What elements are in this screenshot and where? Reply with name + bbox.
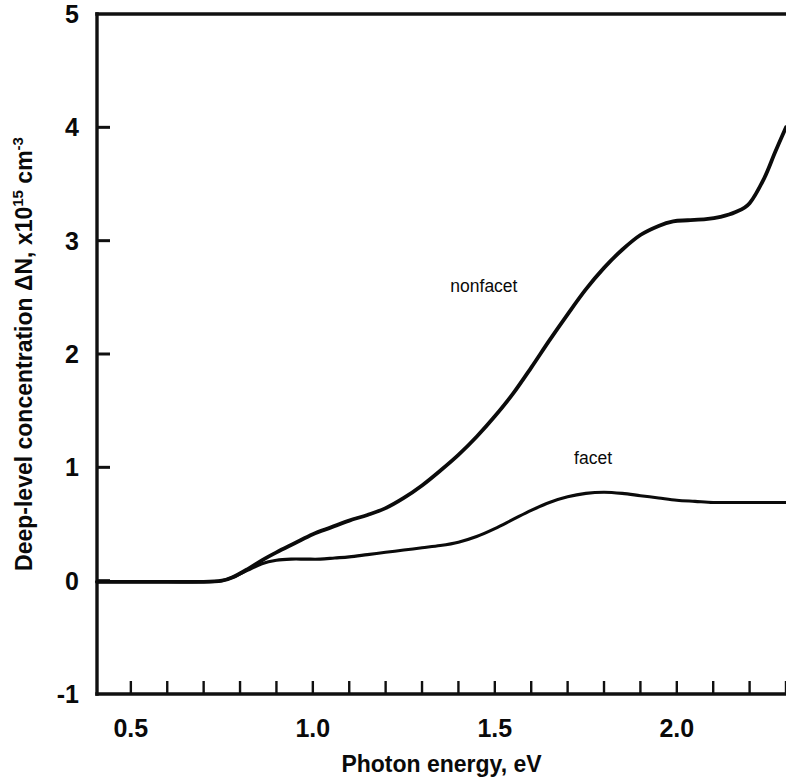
y-tick-label: 0 — [65, 567, 79, 595]
y-tick-label: 5 — [65, 0, 79, 28]
x-tick-label: 1.0 — [295, 714, 330, 742]
y-tick-label: 3 — [65, 227, 79, 255]
x-axis-title: Photon energy, eV — [341, 751, 542, 777]
series-label-nonfacet: nonfacet — [450, 276, 517, 296]
y-tick-label: -1 — [57, 680, 79, 708]
curve-nonfacet — [97, 127, 786, 582]
axes — [97, 14, 786, 694]
y-tick-label: 4 — [65, 113, 79, 141]
plot-canvas: -10123450.51.01.52.0 nonfacetfacet Photo… — [0, 0, 786, 783]
axis-ticks — [97, 127, 786, 694]
x-tick-label: 0.5 — [113, 714, 148, 742]
y-axis-title: Deep-level concentration ΔN, x1015 cm-3 — [9, 137, 37, 571]
x-tick-label: 1.5 — [477, 714, 512, 742]
x-tick-label: 2.0 — [659, 714, 694, 742]
chart-figure: -10123450.51.01.52.0 nonfacetfacet Photo… — [0, 0, 786, 783]
axis-tick-labels: -10123450.51.01.52.0 — [57, 0, 694, 742]
y-tick-label: 2 — [65, 340, 79, 368]
data-curves — [97, 127, 786, 582]
curve-facet — [97, 492, 786, 582]
y-tick-label: 1 — [65, 453, 79, 481]
series-label-facet: facet — [574, 448, 612, 468]
